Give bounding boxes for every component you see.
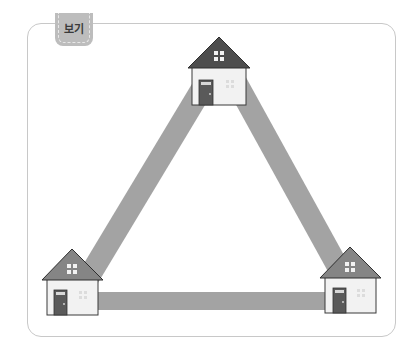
house-top [188,37,250,105]
road-top-to-bottom-left [76,82,206,298]
roads [76,82,354,310]
road-bottom-left-to-bottom-right [95,292,330,310]
house-roof [188,37,250,68]
triangle-diagram [0,0,418,355]
